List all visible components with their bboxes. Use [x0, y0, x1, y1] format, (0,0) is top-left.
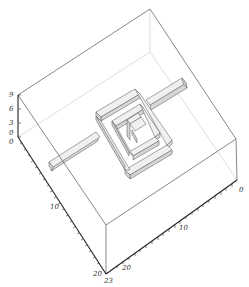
spiral-structure: [49, 78, 187, 179]
3d-plot: 9 6 3 0 0 10 20: [0, 0, 249, 287]
z-tick-9: 9: [9, 91, 14, 99]
z-tick-6: 6: [9, 105, 14, 113]
corner-label-23: 23: [103, 277, 113, 285]
right-tick-10: 10: [179, 224, 188, 232]
left-tick-20: 20: [92, 270, 102, 278]
left-tick-10: 10: [50, 203, 59, 211]
box-visible-edges: [18, 9, 237, 274]
z-tick-3: 3: [9, 119, 14, 127]
left-tick-0: 0: [9, 138, 14, 146]
z-axis: 9 6 3 0: [9, 91, 21, 137]
right-tick-0: 0: [239, 186, 244, 194]
right-tick-20: 20: [121, 264, 131, 272]
right-axis: 0 10 20: [117, 184, 244, 272]
z-tick-0: 0: [9, 129, 14, 137]
